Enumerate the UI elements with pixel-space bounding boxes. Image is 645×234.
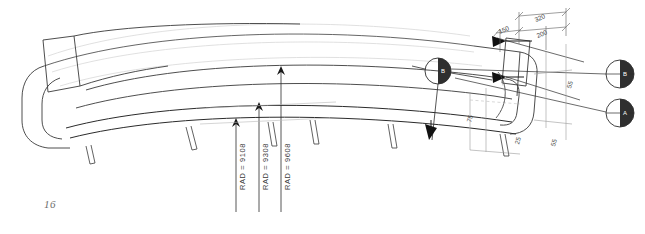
- section-marker-center-label: B: [441, 68, 445, 74]
- technical-drawing: [0, 0, 645, 234]
- radius-leader-lines: [236, 70, 281, 212]
- sofa-seat-band: [76, 65, 494, 108]
- section-arrow-middle: [492, 72, 524, 83]
- section-marker-lower-right: [606, 99, 634, 127]
- sofa-legs: [86, 120, 509, 164]
- page-number: 16: [44, 198, 56, 210]
- section-arrow-upper: [492, 36, 532, 47]
- drawing-sheet: RAD = 9108 RAD = 9308 RAD = 9608 150 320…: [0, 0, 645, 234]
- radius-callout-1: RAD = 9108: [238, 143, 247, 190]
- section-marker-center: [412, 58, 492, 140]
- section-marker-upper-right: [606, 60, 634, 88]
- radius-callout-2: RAD = 9308: [261, 143, 270, 190]
- left-armrest: [22, 24, 300, 149]
- right-armrest: [474, 38, 537, 134]
- radius-callout-3: RAD = 9608: [283, 143, 292, 190]
- sofa-front-edge: [66, 105, 516, 138]
- section-marker-upper-right-label: B: [623, 71, 627, 77]
- sofa-outer-body: [44, 34, 474, 66]
- section-marker-lower-right-label: A: [623, 110, 627, 116]
